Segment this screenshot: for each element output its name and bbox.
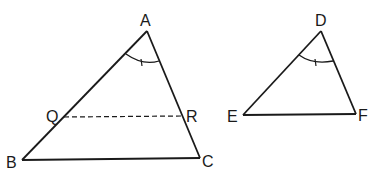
angle-a-arc <box>126 54 159 62</box>
angle-d-tick <box>315 59 316 66</box>
label-d: D <box>315 12 327 29</box>
triangle-def <box>243 31 356 115</box>
segment-qr <box>64 116 183 117</box>
side-ab <box>22 31 147 160</box>
angle-d-arc <box>299 55 333 62</box>
triangle-abc <box>22 31 200 160</box>
geometry-figure: A B C Q R D E F <box>0 0 374 174</box>
side-ac <box>147 31 200 158</box>
angle-a-tick <box>141 59 142 66</box>
side-ef <box>243 114 356 115</box>
side-bc <box>22 158 200 160</box>
label-c: C <box>202 153 214 170</box>
side-de <box>243 31 321 115</box>
label-r: R <box>186 108 198 125</box>
label-b: B <box>6 154 17 171</box>
label-a: A <box>140 12 151 29</box>
label-q: Q <box>46 108 58 125</box>
label-f: F <box>358 107 368 124</box>
label-e: E <box>227 108 238 125</box>
side-df <box>321 31 356 114</box>
